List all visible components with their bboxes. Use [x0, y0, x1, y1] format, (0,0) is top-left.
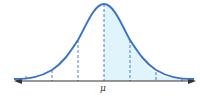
mu-label: μ	[100, 83, 106, 93]
